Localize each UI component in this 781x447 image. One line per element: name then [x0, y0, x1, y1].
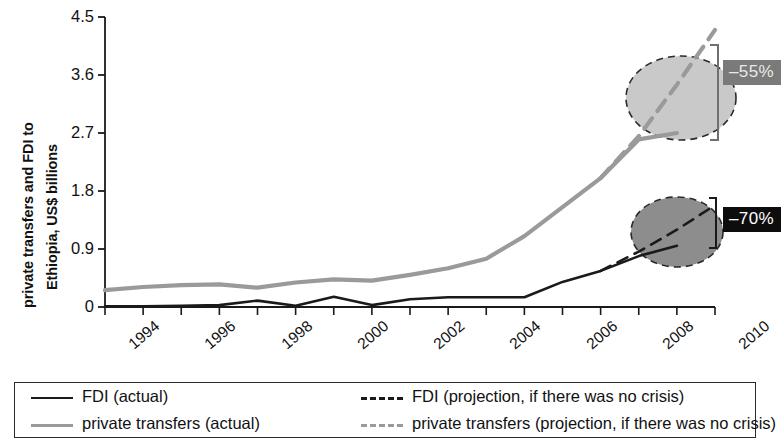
legend-item[interactable]: FDI (projection, if there was no crisis): [345, 387, 757, 406]
highlight-ellipse-fdi: [631, 197, 723, 267]
legend-swatch-icon: [361, 391, 403, 403]
legend-item[interactable]: private transfers (actual): [15, 414, 345, 433]
series-line-private-transfers-actual: [105, 133, 677, 290]
highlight-ellipse-private-transfers: [626, 56, 736, 140]
legend-swatch-icon: [361, 418, 403, 430]
legend-label: FDI (actual): [82, 387, 168, 406]
legend-label: FDI (projection, if there was no crisis): [412, 387, 684, 406]
legend-label: private transfers (actual): [82, 414, 260, 433]
legend-item[interactable]: private transfers (projection, if there …: [345, 414, 757, 433]
highlight-ellipses: [626, 56, 736, 267]
legend: FDI (actual)FDI (projection, if there wa…: [14, 382, 756, 438]
legend-item[interactable]: FDI (actual): [15, 387, 345, 406]
legend-label: private transfers (projection, if there …: [412, 414, 776, 433]
annotation-badge-fdi: –70%: [723, 207, 781, 232]
legend-swatch-icon: [31, 391, 73, 403]
annotation-badge-private-transfers: –55%: [723, 60, 781, 85]
legend-swatch-icon: [31, 418, 73, 430]
